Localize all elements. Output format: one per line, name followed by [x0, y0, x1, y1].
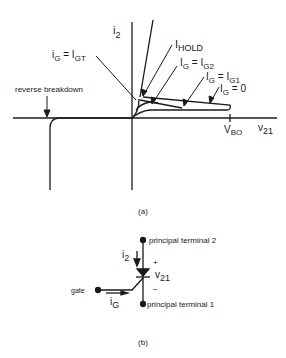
reverse-breakdown-label: reverse breakdown [15, 85, 83, 94]
terminal1-label: principal terminal 1 [147, 300, 215, 309]
i2-label: i2 [122, 249, 129, 263]
characteristic-curves [13, 20, 277, 190]
terminal1-dot [141, 302, 146, 307]
gate-label: gate [71, 287, 85, 295]
minus-sign: − [153, 285, 158, 294]
v21-label: v21 [155, 269, 170, 283]
scr-symbol [96, 238, 151, 307]
ig2-label: IG = IG2 [180, 57, 214, 71]
scr-diagram: i2 IHOLD iG = IGT IG = IG2 IG = IG1 IG =… [0, 0, 286, 358]
hold-label: IHOLD [175, 38, 204, 53]
thyristor-triangle [137, 269, 149, 276]
terminal2-label: principal terminal 2 [149, 236, 217, 245]
caption-a: (a) [138, 207, 148, 216]
curve-ig-1 [140, 100, 182, 108]
plus-sign: + [153, 258, 158, 267]
reverse-breakdown-curve [50, 118, 132, 190]
ig0-label: IG = 0 [220, 83, 246, 97]
caption-b: (b) [138, 338, 148, 347]
y-axis-label: i2 [113, 24, 120, 40]
terminal2-dot [141, 238, 146, 243]
vbo-label: VBO [224, 124, 242, 137]
ig-label: iG [110, 296, 119, 310]
on-state-line [140, 20, 153, 97]
x-axis-label: v21 [258, 122, 273, 136]
igt-label: iG = IGT [52, 49, 86, 63]
